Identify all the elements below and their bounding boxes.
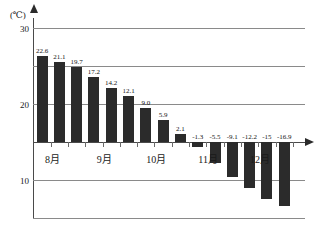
gridline: -20 <box>33 218 305 219</box>
y-axis-tick-label: 30 <box>20 25 29 34</box>
y-axis-tick-label: 20 <box>20 101 29 110</box>
x-axis-tick <box>189 142 190 147</box>
x-axis-tick <box>68 142 69 147</box>
bar <box>227 142 238 177</box>
x-axis-tick <box>224 142 225 147</box>
month-group-label: 10月 <box>146 154 166 165</box>
bar <box>71 67 82 142</box>
plot-area: 3020100-10-2022.621.119.717.214.212.19.0… <box>33 28 305 218</box>
month-group-label: 12月 <box>250 154 270 165</box>
bar-value-label: 22.6 <box>36 47 48 55</box>
bar-value-label: 17.2 <box>88 68 100 76</box>
x-axis-tick <box>206 142 207 147</box>
bar-value-label: 9.0 <box>141 99 150 107</box>
x-axis-tick <box>154 142 155 147</box>
bar-value-label: 14.2 <box>105 79 117 87</box>
x-axis-tick <box>276 142 277 147</box>
bar-value-label: -16.9 <box>277 133 292 141</box>
x-axis-tick <box>293 142 294 147</box>
month-group-label: 11月 <box>198 154 218 165</box>
bar <box>158 120 169 142</box>
bar <box>261 142 272 199</box>
month-group-label: 9月 <box>97 154 112 165</box>
y-axis-line <box>33 18 34 218</box>
bar-value-label: -15 <box>262 133 271 141</box>
bar-value-label: 2.1 <box>176 125 185 133</box>
bar <box>88 77 99 142</box>
x-axis-tick <box>258 142 259 147</box>
x-axis-tick <box>51 142 52 147</box>
temperature-bar-chart: (℃) 3020100-10-2022.621.119.717.214.212.… <box>0 0 316 245</box>
y-axis-tick-label: 10 <box>20 177 29 186</box>
bar <box>175 134 186 142</box>
bar-value-label: 12.1 <box>122 87 134 95</box>
bar <box>106 88 117 142</box>
x-axis-arrow-icon <box>305 138 314 146</box>
bar-value-label: -9.1 <box>227 133 238 141</box>
x-axis-tick <box>241 142 242 147</box>
bar <box>54 62 65 142</box>
bar-value-label: 19.7 <box>70 58 82 66</box>
bar <box>279 142 290 206</box>
y-axis-arrow-icon <box>30 4 38 13</box>
x-axis-tick <box>103 142 104 147</box>
x-axis-tick <box>120 142 121 147</box>
bar-value-label: -12.2 <box>242 133 257 141</box>
y-axis-unit-label: (℃) <box>10 10 25 20</box>
bar <box>140 108 151 142</box>
x-axis-tick <box>85 142 86 147</box>
gridline: 30 <box>33 28 305 29</box>
bar <box>244 142 255 188</box>
bar-value-label: 21.1 <box>53 53 65 61</box>
x-axis-tick <box>137 142 138 147</box>
bar <box>192 142 203 147</box>
bar-value-label: -5.5 <box>209 133 220 141</box>
month-group-label: 8月 <box>45 154 60 165</box>
bar <box>37 56 48 142</box>
bar-value-label: -1.3 <box>192 133 203 141</box>
bar-value-label: 5.9 <box>159 111 168 119</box>
bar <box>123 96 134 142</box>
x-axis-tick <box>172 142 173 147</box>
